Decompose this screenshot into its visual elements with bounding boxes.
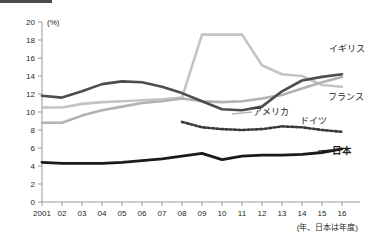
x-tick-label-13: 13 [278,209,287,218]
series-label-uk: イギリス [329,44,365,54]
series-label-usa: アメリカ [253,107,289,117]
x-tick-label-14: 14 [298,209,307,218]
x-tick-label-11: 11 [238,209,247,218]
x-axis: 2001 02 03 04 05 06 07 08 09 10 11 12 13… [33,202,360,232]
y-tick-label-18: 18 [26,36,35,45]
chart-svg: 0 2 4 6 8 10 12 14 16 18 20 (%) [0,0,367,237]
series-label-france: フランス [328,92,364,102]
series-line-uk [42,74,342,110]
y-tick-label-0: 0 [31,198,36,207]
y-tick-label-20: 20 [26,18,35,27]
x-tick-label-16: 16 [338,209,347,218]
x-tick-label-10: 10 [218,209,227,218]
y-tick-label-8: 8 [31,126,36,135]
x-tick-label-04: 04 [98,209,107,218]
x-tick-label-15: 15 [318,209,327,218]
x-tick-label-09: 09 [198,209,207,218]
y-tick-label-2: 2 [31,180,36,189]
y-tick-label-4: 4 [31,162,36,171]
x-tick-label-2001: 2001 [33,209,51,218]
leader-line-usa [232,112,252,114]
x-tick-label-08: 08 [178,209,187,218]
x-tick-label-06: 06 [138,209,147,218]
y-tick-label-14: 14 [26,72,35,81]
x-tick-label-03: 03 [78,209,87,218]
chart-container: 0 2 4 6 8 10 12 14 16 18 20 (%) [0,0,367,237]
y-tick-label-12: 12 [26,90,35,99]
series-label-japan: 日本 [332,145,352,156]
x-tick-label-02: 02 [58,209,67,218]
x-axis-footnote: (年、日本は年度) [297,222,359,232]
series-label-germany: ドイツ [300,116,327,126]
x-tick-label-05: 05 [118,209,127,218]
y-axis-ticks [38,22,42,202]
x-axis-ticks [42,202,342,206]
y-axis-unit: (%) [47,18,60,27]
x-tick-label-12: 12 [258,209,267,218]
y-tick-label-16: 16 [26,54,35,63]
y-axis: 0 2 4 6 8 10 12 14 16 18 20 (%) [26,18,60,207]
x-tick-label-07: 07 [158,209,167,218]
y-tick-label-10: 10 [26,108,35,117]
series-line-japan [42,149,342,163]
series-layer [42,35,342,164]
y-tick-label-6: 6 [31,144,36,153]
